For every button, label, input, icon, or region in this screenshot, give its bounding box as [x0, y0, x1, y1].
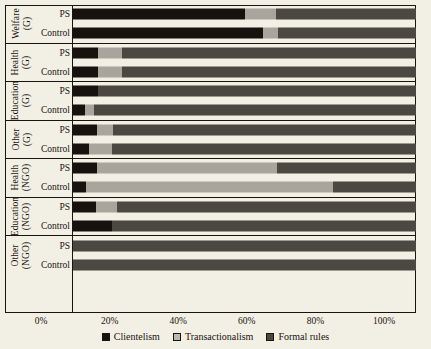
- bar-group: Other(NGO)PSControl: [5, 236, 416, 275]
- bar-segment-formal-rules: [278, 28, 416, 39]
- legend-label: Formal rules: [278, 331, 329, 342]
- bar-row-label: PS: [37, 240, 70, 251]
- stacked-bar: [73, 9, 416, 20]
- group-label: Health(G): [5, 44, 37, 82]
- bar-row: PS: [37, 198, 416, 217]
- stacked-bar: [73, 105, 416, 116]
- legend-item: Transactionalism: [173, 331, 254, 342]
- bar-segment-formal-rules: [113, 124, 416, 135]
- chart-legend: ClientelismTransactionalismFormal rules: [0, 331, 431, 342]
- bar-segment-clientelism: [73, 143, 89, 154]
- stacked-bar: [73, 124, 416, 135]
- bar-segment-formal-rules: [117, 201, 416, 212]
- bar-row: PS: [37, 44, 416, 63]
- bar-row: Control: [37, 178, 416, 197]
- bar-segment-transactionalism: [86, 182, 333, 193]
- bar-row: PS: [37, 82, 416, 101]
- x-axis: 0%20%40%60%80%100%: [41, 316, 384, 330]
- bar-group: Other(G)PSControl: [5, 121, 416, 160]
- group-label-line1: Education: [11, 81, 21, 120]
- bar-row-label: PS: [37, 124, 70, 135]
- bar-row: Control: [37, 24, 416, 43]
- bar-segment-formal-rules: [112, 143, 416, 154]
- stacked-bar: [73, 259, 416, 270]
- bar-segment-formal-rules: [276, 9, 416, 20]
- bar-row: Control: [37, 139, 416, 158]
- group-bar-rows: PSControl: [37, 121, 416, 159]
- bar-row: PS: [37, 5, 416, 24]
- legend-label: Transactionalism: [185, 331, 254, 342]
- bar-group: Education(NGO)PSControl: [5, 198, 416, 237]
- x-axis-tick-label: 60%: [238, 316, 255, 326]
- group-bar-rows: PSControl: [37, 236, 416, 275]
- legend-label: Clientelism: [114, 331, 160, 342]
- bar-segment-formal-rules: [112, 220, 416, 231]
- bar-segment-clientelism: [73, 105, 85, 116]
- group-label-line2: (G): [21, 128, 32, 150]
- group-bar-rows: PSControl: [37, 82, 416, 120]
- bar-segment-transactionalism: [263, 28, 278, 39]
- legend-item: Clientelism: [102, 331, 160, 342]
- bar-segment-formal-rules: [333, 182, 416, 193]
- bar-segment-formal-rules: [122, 47, 416, 58]
- bar-row-label: PS: [37, 86, 70, 97]
- bar-segment-formal-rules: [94, 105, 416, 116]
- bar-row-label: Control: [37, 105, 70, 116]
- bar-segment-clientelism: [73, 28, 263, 39]
- bar-segment-transactionalism: [98, 66, 122, 77]
- stacked-bar-chart: Welfare(G)PSControlHealth(G)PSControlEdu…: [0, 0, 431, 349]
- bar-segment-transactionalism: [97, 163, 277, 174]
- bar-row-label: PS: [37, 47, 70, 58]
- group-bar-rows: PSControl: [37, 198, 416, 236]
- group-label: Other(G): [5, 121, 37, 159]
- bar-segment-transactionalism: [96, 201, 117, 212]
- bar-row-label: Control: [37, 143, 70, 154]
- bar-row-label: Control: [37, 259, 70, 270]
- bar-row-label: Control: [37, 28, 70, 39]
- stacked-bar: [73, 220, 416, 231]
- x-axis-tick-label: 100%: [373, 316, 395, 326]
- stacked-bar: [73, 47, 416, 58]
- bar-segment-formal-rules: [122, 66, 416, 77]
- bar-segment-formal-rules: [73, 240, 416, 251]
- group-label-line2: (G): [21, 81, 32, 120]
- legend-swatch-icon: [173, 333, 181, 341]
- bar-segment-clientelism: [73, 220, 112, 231]
- bar-segment-transactionalism: [85, 105, 94, 116]
- group-label: Welfare(G): [5, 5, 37, 43]
- group-label-line1: Health: [11, 49, 21, 75]
- bar-row-label: Control: [37, 182, 70, 193]
- bar-row: Control: [37, 216, 416, 235]
- x-axis-tick-label: 20%: [101, 316, 118, 326]
- legend-swatch-icon: [266, 333, 274, 341]
- stacked-bar: [73, 28, 416, 39]
- group-bar-rows: PSControl: [37, 159, 416, 197]
- stacked-bar: [73, 66, 416, 77]
- group-label: Education(NGO): [5, 198, 37, 236]
- stacked-bar: [73, 163, 416, 174]
- bar-row: PS: [37, 121, 416, 140]
- bar-segment-clientelism: [73, 182, 86, 193]
- group-label-line1: Other: [10, 128, 20, 150]
- group-label: Health(NGO): [5, 159, 37, 197]
- group-label: Education(G): [5, 82, 37, 120]
- bar-row: Control: [37, 101, 416, 120]
- group-label-line2: (G): [21, 8, 32, 39]
- group-label-line2: (NGO): [21, 164, 32, 191]
- stacked-bar: [73, 143, 416, 154]
- x-axis-tick-label: 80%: [307, 316, 324, 326]
- bar-segment-clientelism: [73, 163, 97, 174]
- group-bar-rows: PSControl: [37, 44, 416, 82]
- bar-segment-transactionalism: [89, 143, 112, 154]
- bar-segment-clientelism: [73, 86, 98, 97]
- bar-group: Education(G)PSControl: [5, 82, 416, 121]
- bar-row-label: PS: [37, 9, 70, 20]
- bar-segment-clientelism: [73, 124, 97, 135]
- bar-segment-transactionalism: [98, 47, 122, 58]
- group-label-line1: Welfare: [11, 8, 21, 39]
- bar-group: Health(G)PSControl: [5, 44, 416, 83]
- bar-row-label: PS: [37, 163, 70, 174]
- bar-segment-transactionalism: [245, 9, 277, 20]
- bar-row: PS: [37, 236, 416, 255]
- stacked-bar: [73, 182, 416, 193]
